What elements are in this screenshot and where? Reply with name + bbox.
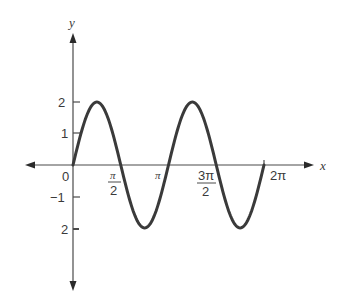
x-axis-label: x	[319, 158, 326, 173]
x-tick-pi-half: π 2	[108, 169, 121, 198]
y-axis-label: y	[67, 15, 75, 30]
origin-label: 0	[62, 169, 69, 184]
x-tick-2pi: 2π	[270, 168, 286, 183]
sine-graph: x y 2 1 −1 2 0 π 2 π 3π 2 2π	[0, 0, 342, 295]
svg-text:2: 2	[110, 183, 117, 198]
svg-text:π: π	[110, 169, 116, 181]
x-axis-right-arrow-icon	[304, 162, 314, 169]
y-axis-down-arrow-icon	[70, 281, 77, 291]
x-axis-left-arrow-icon	[25, 162, 35, 169]
svg-text:2: 2	[202, 184, 209, 199]
y-axis-up-arrow-icon	[70, 33, 77, 43]
y-tick-label-minus-2: 2	[61, 222, 68, 237]
y-tick-label-1: 1	[61, 126, 68, 141]
x-tick-pi: π	[155, 169, 161, 181]
x-tick-three-pi-half: 3π 2	[197, 168, 216, 199]
y-tick-label-minus-1: −1	[50, 190, 65, 205]
svg-text:3π: 3π	[198, 168, 214, 183]
y-tick-label-2: 2	[58, 95, 65, 110]
